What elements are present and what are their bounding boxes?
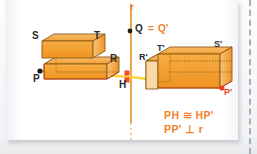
label-axis-r: r: [130, 3, 134, 13]
label-equals: =: [148, 24, 154, 34]
label-q: Q: [135, 24, 143, 34]
solid-right: [146, 47, 232, 89]
figure-stage: r Q = Q' S T R P H R' T' S' P' PH ≅ HP' …: [0, 0, 257, 154]
label-s-prime: S': [214, 40, 222, 49]
label-h: H: [119, 80, 126, 90]
label-p: P: [33, 74, 40, 84]
label-s: S: [32, 31, 39, 41]
label-r-prime: R': [139, 53, 148, 62]
label-t-prime: T': [157, 44, 165, 53]
label-q-prime: Q': [158, 24, 168, 34]
formula-perpendicular: PP' ⊥ r: [164, 124, 203, 135]
page-cut-dashed-line: [249, 0, 251, 154]
label-r-vertex: R: [110, 54, 117, 64]
label-t: T: [94, 31, 100, 41]
label-p-prime: P': [224, 88, 232, 97]
formula-congruent-segments: PH ≅ HP': [164, 110, 214, 121]
point-q-dot: [128, 29, 133, 34]
solid-left: [42, 34, 119, 79]
